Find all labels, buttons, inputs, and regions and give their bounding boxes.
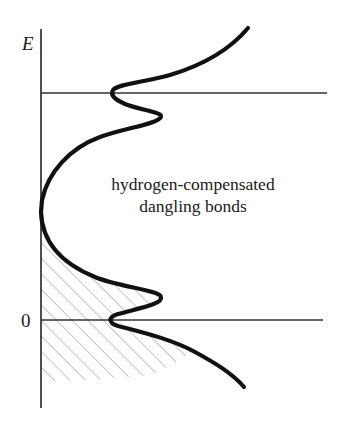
occupied-states-hatching (41, 215, 201, 385)
gap-annotation: hydrogen-compensated dangling bonds (88, 173, 298, 217)
zero-label: 0 (21, 311, 31, 330)
annotation-line-1: hydrogen-compensated (88, 173, 298, 195)
dos-diagram: E 0 hydrogen-compensated dangling bonds (0, 0, 345, 427)
annotation-line-2: dangling bonds (88, 195, 298, 217)
energy-axis-label: E (22, 34, 34, 53)
